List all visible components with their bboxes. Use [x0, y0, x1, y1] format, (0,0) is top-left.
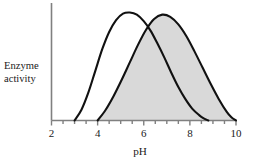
x-tick-label: 2	[49, 127, 55, 139]
x-tick-label: 4	[95, 127, 101, 139]
shaded-region-group	[98, 15, 236, 121]
shaded-region-enzyme-2	[98, 15, 236, 121]
x-axis-label: pH	[133, 145, 147, 157]
enzyme-activity-ph-chart: Enzyme activity 246810 pH	[0, 0, 255, 162]
x-tick-label: 8	[187, 127, 193, 139]
x-axis-tick-labels-group: 246810	[49, 127, 242, 139]
plot-area: 246810 pH	[0, 0, 255, 162]
x-tick-label: 10	[231, 127, 243, 139]
x-tick-label: 6	[141, 127, 147, 139]
